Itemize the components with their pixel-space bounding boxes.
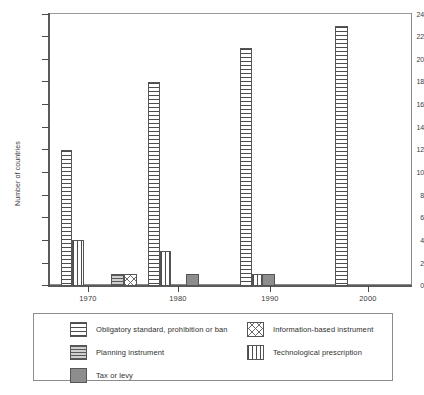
legend-swatch-information-based-instrument-icon	[247, 322, 264, 337]
bar-1980-technological-prescription[interactable]	[160, 251, 171, 286]
bar-1970-information-based-instrument[interactable]	[124, 274, 137, 286]
bar-2000-obligatory-standard[interactable]	[335, 26, 348, 286]
legend-entry-tax-or-levy[interactable]: Tax or levy	[70, 368, 133, 383]
legend-entry-planning-instrument[interactable]: Planning instrument	[70, 345, 164, 360]
x-tick-1980	[178, 286, 179, 292]
bar-1980-obligatory-standard[interactable]	[148, 82, 160, 286]
bar-1990-tax-or-levy[interactable]	[262, 274, 275, 286]
x-tick-label-1970: 1970	[63, 294, 113, 303]
legend-swatch-tax-or-levy-icon	[70, 368, 87, 383]
bars-layer	[0, 0, 424, 286]
legend-swatch-obligatory-standard-icon	[70, 322, 87, 337]
x-tick-2000	[368, 286, 369, 292]
legend-label-obligatory-standard: Obligatory standard, prohibition or ban	[96, 325, 227, 334]
legend-swatch-planning-instrument-icon	[70, 345, 87, 360]
legend-label-tax-or-levy: Tax or levy	[96, 371, 133, 380]
x-tick-label-1980: 1980	[153, 294, 203, 303]
legend-entry-obligatory-standard[interactable]: Obligatory standard, prohibition or ban	[70, 322, 227, 337]
legend-label-planning-instrument: Planning instrument	[96, 348, 164, 357]
x-tick-label-1990: 1990	[245, 294, 295, 303]
bar-1990-obligatory-standard[interactable]	[240, 48, 252, 286]
bar-1980-tax-or-levy[interactable]	[186, 274, 199, 286]
x-tick-1990	[270, 286, 271, 292]
legend-entry-information-based-instrument[interactable]: Information-based instrument	[247, 322, 373, 337]
bar-1970-technological-prescription[interactable]	[72, 240, 84, 286]
bar-1990-technological-prescription[interactable]	[252, 274, 262, 286]
legend-label-technological-prescription: Technological prescription	[273, 348, 362, 357]
legend-swatch-technological-prescription-icon	[247, 345, 264, 360]
legend-label-information-based-instrument: Information-based instrument	[273, 325, 373, 334]
x-tick-label-2000: 2000	[343, 294, 393, 303]
bar-1970-obligatory-standard[interactable]	[61, 150, 72, 286]
x-tick-1970	[88, 286, 89, 292]
bar-1970-planning-instrument[interactable]	[111, 274, 124, 286]
legend-entry-technological-prescription[interactable]: Technological prescription	[247, 345, 362, 360]
